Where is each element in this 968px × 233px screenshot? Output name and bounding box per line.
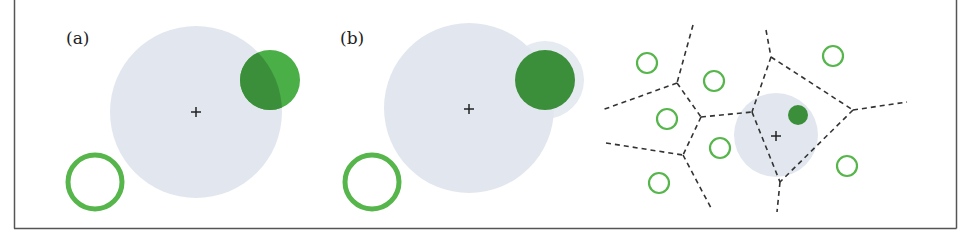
voronoi-edge bbox=[853, 102, 907, 110]
voronoi-edge bbox=[606, 143, 683, 155]
site-ring bbox=[837, 156, 857, 176]
site-ring bbox=[710, 138, 730, 158]
site-ring bbox=[657, 109, 677, 129]
panel-label-a: (a) bbox=[66, 28, 89, 48]
voronoi-edge bbox=[677, 83, 701, 117]
voronoi-edge bbox=[683, 155, 711, 208]
site-ring bbox=[637, 53, 657, 73]
target-filled-dot bbox=[788, 105, 808, 125]
voronoi-edge bbox=[683, 117, 701, 155]
site-ring bbox=[823, 46, 843, 66]
voronoi-edge bbox=[677, 25, 693, 83]
voronoi-edge bbox=[602, 83, 677, 110]
site-ring bbox=[704, 71, 724, 91]
target-filled-circle bbox=[515, 50, 575, 110]
panel-b: (b) bbox=[340, 23, 584, 209]
panel-a: (a) bbox=[66, 26, 300, 209]
hollow-ring bbox=[345, 155, 399, 209]
panel-label-b: (b) bbox=[340, 28, 364, 48]
voronoi-edge bbox=[777, 182, 780, 212]
figure-canvas: (a) (b) bbox=[0, 0, 968, 233]
voronoi-edge bbox=[766, 30, 771, 57]
panel-c bbox=[602, 25, 907, 212]
hollow-ring bbox=[68, 155, 122, 209]
site-ring bbox=[649, 173, 669, 193]
